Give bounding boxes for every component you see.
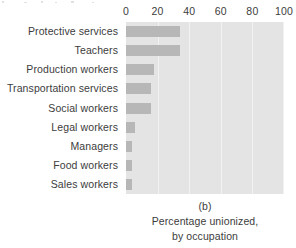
- category-label-sales-workers: Sales workers: [51, 175, 118, 194]
- caption-line-1: Percentage unionized,: [126, 214, 284, 229]
- scan-artifact: [2, 1, 4, 3]
- bar-social-workers: [126, 103, 151, 114]
- x-axis-tick-40: 40: [183, 4, 195, 18]
- bar-teachers: [126, 45, 180, 56]
- bar-legal-workers: [126, 122, 135, 133]
- x-axis-tick-20: 20: [152, 4, 164, 18]
- plot-area: [126, 22, 284, 194]
- scan-artifact: [71, 1, 74, 3]
- category-label-teachers: Teachers: [75, 41, 118, 60]
- scan-artifact: [55, 2, 57, 3]
- y-axis-category-labels: Protective servicesTeachersProduction wo…: [0, 22, 122, 194]
- x-axis-tick-0: 0: [123, 4, 129, 18]
- category-label-managers: Managers: [71, 137, 119, 156]
- figure-caption: (b) Percentage unionized, by occupation: [126, 199, 284, 244]
- scan-artifact: [24, 2, 27, 3]
- x-axis-tick-labels: 020406080100: [126, 4, 284, 18]
- bar-production-workers: [126, 64, 154, 75]
- bar-sales-workers: [126, 179, 132, 190]
- category-label-transportation-services: Transportation services: [7, 79, 118, 98]
- bar-chart-figure: 020406080100 Protective servicesTeachers…: [0, 0, 296, 248]
- bar-protective-services: [126, 26, 180, 37]
- gridline-60: [221, 22, 222, 194]
- category-label-social-workers: Social workers: [48, 99, 118, 118]
- category-label-protective-services: Protective services: [28, 22, 118, 41]
- scan-artifact: [92, 2, 94, 3]
- gridline-80: [252, 22, 253, 194]
- panel-letter: (b): [126, 199, 284, 214]
- scan-artifact: [41, 1, 43, 3]
- gridline-100: [283, 22, 284, 194]
- caption-line-2: by occupation: [126, 229, 284, 244]
- category-label-production-workers: Production workers: [26, 60, 118, 79]
- gridline-40: [189, 22, 190, 194]
- category-label-food-workers: Food workers: [53, 156, 118, 175]
- x-axis-tick-80: 80: [246, 4, 258, 18]
- x-axis-tick-100: 100: [275, 4, 293, 18]
- category-label-legal-workers: Legal workers: [51, 118, 118, 137]
- bar-food-workers: [126, 160, 132, 171]
- x-axis-tick-60: 60: [215, 4, 227, 18]
- bar-managers: [126, 141, 132, 152]
- bar-transportation-services: [126, 83, 151, 94]
